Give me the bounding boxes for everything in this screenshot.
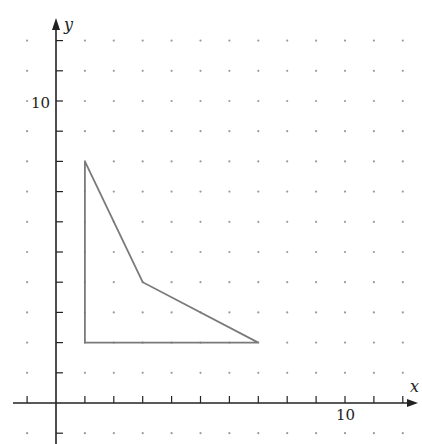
grid-dot — [26, 432, 28, 434]
y-axis-arrow-icon — [52, 18, 60, 30]
grid-dot — [171, 160, 173, 162]
grid-dot — [402, 342, 404, 344]
grid-dot — [373, 221, 375, 223]
grid-dot — [228, 311, 230, 313]
grid-dot — [142, 251, 144, 253]
grid-dot — [26, 251, 28, 253]
x-axis-label: x — [410, 377, 419, 396]
grid-dot — [344, 372, 346, 374]
grid-dot — [171, 221, 173, 223]
grid-dot — [402, 40, 404, 42]
grid-dot — [315, 311, 317, 313]
grid-dot — [113, 251, 115, 253]
grid-dot — [286, 100, 288, 102]
grid-dot — [373, 70, 375, 72]
grid-dot — [228, 40, 230, 42]
grid-dot — [142, 40, 144, 42]
grid-dot — [199, 100, 201, 102]
grid-dot — [228, 251, 230, 253]
grid-dot — [286, 311, 288, 313]
grid-dot — [344, 342, 346, 344]
grid-dot — [257, 160, 259, 162]
grid-dot — [199, 251, 201, 253]
grid-dot — [199, 130, 201, 132]
grid-dot — [315, 191, 317, 193]
grid-dot — [373, 342, 375, 344]
grid-dot — [373, 432, 375, 434]
grid-dot — [228, 100, 230, 102]
grid-dot — [257, 191, 259, 193]
grid-dot — [286, 372, 288, 374]
grid-dot — [257, 432, 259, 434]
grid-dot — [257, 221, 259, 223]
grid-dot — [315, 432, 317, 434]
grid-dot — [113, 40, 115, 42]
grid-dot — [373, 281, 375, 283]
grid-dot — [344, 432, 346, 434]
grid-dot — [286, 40, 288, 42]
grid-dot — [344, 100, 346, 102]
grid-dot — [171, 311, 173, 313]
grid-dot — [315, 40, 317, 42]
grid-dot — [257, 311, 259, 313]
grid-dot — [171, 70, 173, 72]
grid-dot — [199, 221, 201, 223]
grid-dot — [228, 372, 230, 374]
grid-dot — [344, 221, 346, 223]
grid-dot — [344, 191, 346, 193]
grid-dot — [113, 100, 115, 102]
grid-dot — [344, 70, 346, 72]
grid-dot — [26, 311, 28, 313]
grid-dot — [402, 432, 404, 434]
grid-dot — [257, 281, 259, 283]
axes — [13, 18, 418, 444]
grid-dot — [402, 100, 404, 102]
grid-dot — [171, 281, 173, 283]
y-axis-label: y — [63, 15, 74, 34]
grid-dot — [344, 311, 346, 313]
grid-dot — [228, 281, 230, 283]
grid-dot — [286, 191, 288, 193]
grid-dot — [315, 160, 317, 162]
grid-dot — [84, 70, 86, 72]
grid-dot — [286, 251, 288, 253]
grid-dot — [142, 311, 144, 313]
grid-dot — [26, 342, 28, 344]
grid-dot — [286, 342, 288, 344]
grid-dot — [344, 130, 346, 132]
grid-dot — [171, 130, 173, 132]
grid-dot — [113, 70, 115, 72]
grid-dot — [402, 130, 404, 132]
grid-dot — [315, 130, 317, 132]
grid-dot — [26, 100, 28, 102]
grid-dot — [373, 100, 375, 102]
grid-dot — [113, 281, 115, 283]
grid-dot — [344, 281, 346, 283]
grid-dot — [113, 311, 115, 313]
grid-dot — [315, 251, 317, 253]
grid-dot — [257, 251, 259, 253]
grid-dot — [228, 191, 230, 193]
grid-dot — [113, 372, 115, 374]
grid-dot — [199, 70, 201, 72]
y-tick-label-10: 10 — [31, 94, 50, 112]
grid-dot — [113, 160, 115, 162]
grid-dot — [315, 221, 317, 223]
dot-grid — [26, 40, 404, 435]
grid-dot — [113, 191, 115, 193]
grid-dot — [402, 372, 404, 374]
grid-dot — [199, 160, 201, 162]
grid-dot — [199, 281, 201, 283]
grid-dot — [113, 130, 115, 132]
grid-dot — [26, 191, 28, 193]
grid-dot — [373, 191, 375, 193]
grid-dot — [26, 372, 28, 374]
grid-dot — [315, 372, 317, 374]
grid-dot — [344, 160, 346, 162]
grid-dot — [26, 130, 28, 132]
grid-dot — [257, 372, 259, 374]
grid-dot — [286, 130, 288, 132]
grid-dot — [142, 70, 144, 72]
grid-dot — [84, 432, 86, 434]
grid-dot — [142, 160, 144, 162]
